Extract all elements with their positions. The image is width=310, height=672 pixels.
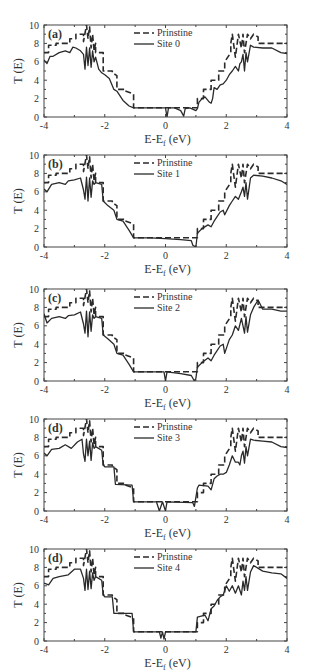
y-tick-label: 2	[34, 617, 39, 628]
y-tick-label: 4	[34, 339, 39, 350]
legend-entry-prinstine: Prinstine	[157, 551, 193, 562]
x-tick-label: 0	[163, 250, 168, 261]
x-tick-label: 2	[224, 514, 229, 525]
series-site-line	[44, 175, 287, 247]
y-tick-label: 4	[34, 75, 39, 86]
y-tick-label: 10	[29, 284, 39, 295]
x-tick-label: 2	[224, 250, 229, 261]
x-tick-label: -4	[40, 384, 48, 395]
x-tick-label: -2	[101, 250, 109, 261]
panel-label: (d)	[48, 421, 63, 435]
y-tick-label: 4	[34, 469, 39, 480]
x-axis-label: E-Ef (eV)	[144, 132, 190, 148]
x-axis-label: E-Ef (eV)	[144, 396, 190, 412]
x-tick-label: -4	[40, 250, 48, 261]
legend-entry-site: Site 1	[157, 168, 180, 179]
y-tick-label: 2	[34, 93, 39, 104]
legend-entry-prinstine: Prinstine	[157, 421, 193, 432]
series-site-line	[44, 439, 287, 511]
y-tick-label: 0	[34, 242, 39, 253]
y-tick-label: 0	[34, 636, 39, 647]
x-axis-label: E-Ef (eV)	[144, 262, 190, 278]
y-axis-label: T (E)	[11, 452, 25, 477]
y-tick-label: 2	[34, 357, 39, 368]
x-tick-label: -2	[101, 514, 109, 525]
x-tick-label: 2	[224, 644, 229, 655]
y-tick-label: 8	[34, 432, 39, 443]
panel-label: (d)	[48, 551, 63, 565]
series-site-line	[44, 566, 287, 640]
legend-entry-prinstine: Prinstine	[157, 27, 193, 38]
y-tick-label: 8	[34, 38, 39, 49]
y-axis-label: T (E)	[11, 322, 25, 347]
series-site-line	[44, 45, 287, 117]
y-tick-label: 6	[34, 320, 39, 331]
y-tick-label: 10	[29, 414, 39, 425]
x-tick-label: 2	[224, 120, 229, 131]
x-axis-label: E-Ef (eV)	[144, 526, 190, 542]
x-tick-label: 2	[224, 384, 229, 395]
x-tick-label: 4	[285, 384, 290, 395]
x-tick-label: 0	[163, 644, 168, 655]
figure: -4-20240246810T (E)E-Ef (eV)(a)Prinstine…	[0, 0, 310, 672]
y-tick-label: 2	[34, 223, 39, 234]
y-tick-label: 0	[34, 112, 39, 123]
legend-entry-site: Site 0	[157, 38, 180, 49]
legend-entry-prinstine: Prinstine	[157, 291, 193, 302]
panel-5: -4-20240246810T (E)E-Ef (eV)(d)Prinstine…	[11, 544, 290, 672]
x-tick-label: -4	[40, 644, 48, 655]
panel-2: -4-20240246810T (E)E-Ef (eV)(b)Prinstine…	[11, 150, 290, 279]
panel-label: (b)	[48, 157, 63, 171]
y-tick-label: 6	[34, 580, 39, 591]
panel-label: (a)	[48, 27, 62, 41]
legend-entry-site: Site 3	[157, 432, 180, 443]
x-tick-label: 0	[163, 514, 168, 525]
x-tick-label: -2	[101, 384, 109, 395]
y-axis-label: T (E)	[11, 582, 25, 607]
y-tick-label: 8	[34, 562, 39, 573]
panel-1: -4-20240246810T (E)E-Ef (eV)(a)Prinstine…	[11, 20, 290, 149]
legend-entry-prinstine: Prinstine	[157, 157, 193, 168]
x-tick-label: 0	[163, 384, 168, 395]
y-tick-label: 6	[34, 450, 39, 461]
panel-4: -4-20240246810T (E)E-Ef (eV)(d)Prinstine…	[11, 414, 290, 543]
x-axis-label: E-Ef (eV)	[144, 656, 190, 672]
panel-label: (c)	[48, 291, 61, 305]
y-tick-label: 4	[34, 599, 39, 610]
x-tick-label: -4	[40, 120, 48, 131]
y-tick-label: 0	[34, 506, 39, 517]
y-tick-label: 2	[34, 487, 39, 498]
x-tick-label: 4	[285, 644, 290, 655]
y-tick-label: 8	[34, 302, 39, 313]
x-tick-label: 4	[285, 514, 290, 525]
y-tick-label: 0	[34, 376, 39, 387]
x-tick-label: -2	[101, 644, 109, 655]
legend-entry-site: Site 4	[157, 562, 180, 573]
y-tick-label: 10	[29, 150, 39, 161]
x-tick-label: -2	[101, 120, 109, 131]
y-tick-label: 10	[29, 544, 39, 555]
x-tick-label: -4	[40, 514, 48, 525]
y-tick-label: 10	[29, 20, 39, 31]
x-tick-label: 4	[285, 120, 290, 131]
y-tick-label: 8	[34, 168, 39, 179]
x-tick-label: 0	[163, 120, 168, 131]
y-tick-label: 4	[34, 205, 39, 216]
y-axis-label: T (E)	[11, 188, 25, 213]
panel-3: -4-20240246810T (E)E-Ef (eV)(c)Prinstine…	[11, 284, 290, 413]
y-tick-label: 6	[34, 186, 39, 197]
x-tick-label: 4	[285, 250, 290, 261]
y-tick-label: 6	[34, 56, 39, 67]
y-axis-label: T (E)	[11, 58, 25, 83]
legend-entry-site: Site 2	[157, 302, 180, 313]
